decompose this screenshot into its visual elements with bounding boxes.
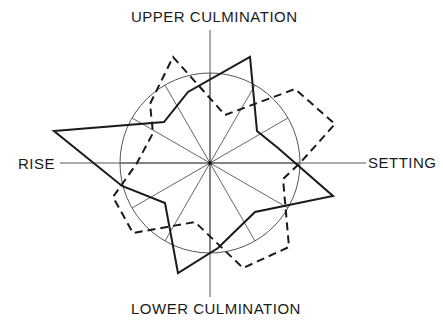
spoke-line: [210, 118, 288, 163]
lower-culmination-label: LOWER CULMINATION: [131, 300, 301, 317]
data-series: [54, 57, 335, 273]
setting-label: SETTING: [368, 154, 437, 171]
spoke-line: [210, 85, 255, 163]
star-diagram: UPPER CULMINATION LOWER CULMINATION RISE…: [0, 0, 443, 329]
spoke-line: [210, 163, 255, 241]
center-dot: [208, 161, 212, 165]
spoke-line: [132, 118, 210, 163]
spoke-line: [165, 85, 210, 163]
rise-label: RISE: [18, 155, 55, 172]
upper-culmination-label: UPPER CULMINATION: [131, 8, 298, 25]
main-axes: [60, 30, 366, 297]
spoke-line: [210, 163, 288, 208]
spoke-line: [132, 163, 210, 208]
